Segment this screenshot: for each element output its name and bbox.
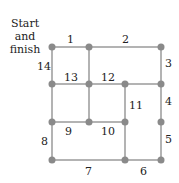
node-start bbox=[49, 44, 56, 51]
node bbox=[158, 81, 165, 88]
start-finish-label: Start and finish bbox=[2, 17, 48, 56]
node bbox=[122, 81, 129, 88]
edge-label-12: 12 bbox=[101, 72, 115, 83]
node bbox=[86, 119, 93, 126]
node bbox=[49, 119, 56, 126]
node bbox=[158, 44, 165, 51]
node bbox=[122, 157, 129, 164]
edge-label-7: 7 bbox=[85, 166, 92, 177]
node bbox=[49, 157, 56, 164]
edge-label-3: 3 bbox=[165, 58, 172, 69]
edge-label-9: 9 bbox=[65, 126, 72, 137]
edges bbox=[52, 47, 161, 160]
edge-label-8: 8 bbox=[41, 136, 48, 147]
node bbox=[86, 44, 93, 51]
start-label-line: Start bbox=[2, 17, 48, 30]
node bbox=[86, 81, 93, 88]
edge-label-10: 10 bbox=[101, 126, 115, 137]
edge-label-13: 13 bbox=[64, 72, 78, 83]
edge-label-1: 1 bbox=[67, 34, 74, 45]
node bbox=[49, 81, 56, 88]
node bbox=[158, 157, 165, 164]
start-label-line: and bbox=[2, 30, 48, 43]
edge-label-6: 6 bbox=[140, 166, 147, 177]
edge-label-4: 4 bbox=[165, 96, 172, 107]
node bbox=[158, 119, 165, 126]
edge-label-2: 2 bbox=[122, 34, 129, 45]
edge-label-14: 14 bbox=[37, 61, 51, 72]
edge-label-5: 5 bbox=[165, 134, 172, 145]
nodes bbox=[49, 44, 165, 164]
start-label-line: finish bbox=[2, 43, 48, 56]
node bbox=[122, 119, 129, 126]
edge-label-11: 11 bbox=[129, 100, 143, 111]
